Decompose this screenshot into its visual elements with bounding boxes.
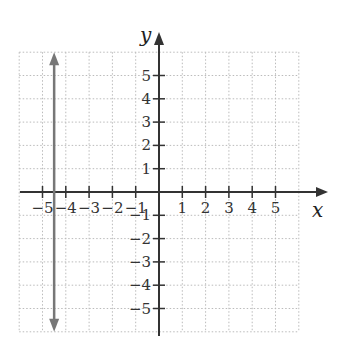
arrow-up-icon: [49, 52, 59, 65]
x-tick-label: 2: [201, 199, 211, 217]
x-axis-arrow-icon: [316, 187, 328, 197]
y-tick-label: −3: [129, 253, 151, 271]
x-tick-label: −2: [101, 199, 123, 217]
x-tick-label: 5: [271, 199, 281, 217]
y-axis-arrow-icon: [154, 32, 164, 45]
y-axis-label: y: [139, 23, 152, 47]
y-tick-label: 2: [141, 136, 151, 154]
y-tick-label: 3: [141, 113, 151, 131]
y-tick-label: 4: [141, 90, 151, 108]
x-tick-label: 1: [178, 199, 188, 217]
y-tick-label: 1: [141, 160, 151, 178]
coordinate-plane: −5−4−3−2−112345−5−4−3−2−112345 x y: [0, 0, 340, 362]
y-tick-label: −5: [129, 300, 151, 318]
x-tick-label: −5: [31, 199, 53, 217]
x-tick-label: −4: [55, 199, 77, 217]
y-tick-label: −1: [129, 206, 151, 224]
arrow-down-icon: [49, 319, 59, 332]
x-tick-label: 4: [247, 199, 257, 217]
y-tick-label: 5: [141, 67, 151, 85]
x-tick-label: −3: [78, 199, 100, 217]
x-tick-label: 3: [224, 199, 234, 217]
y-tick-label: −2: [129, 230, 151, 248]
y-tick-label: −4: [129, 276, 151, 294]
x-axis-label: x: [312, 198, 323, 222]
